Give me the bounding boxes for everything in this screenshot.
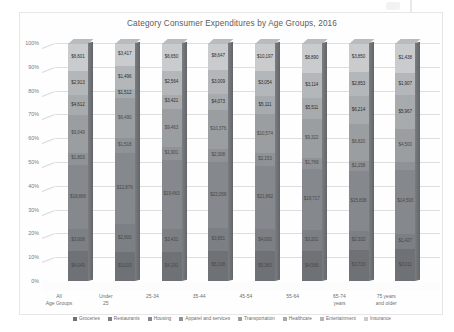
stacked-bar[interactable]: $3,733$2,332$15,838$1,158$6,820$6,214$2,…: [349, 43, 369, 281]
bar-segment[interactable]: $4,073: [208, 94, 228, 110]
bar-segment[interactable]: $5,511: [302, 98, 322, 120]
bar-segment[interactable]: $2,153: [255, 153, 275, 165]
bar-segment[interactable]: $6,601: [68, 43, 88, 71]
bar-segment[interactable]: $1,427: [395, 234, 415, 249]
x-axis-label: All Age Groups: [33, 293, 85, 306]
bar-segment[interactable]: $1,901: [162, 147, 182, 160]
bar-segment[interactable]: $3,008: [68, 229, 88, 251]
bar-segment[interactable]: $3,054: [255, 71, 275, 96]
bar-segment[interactable]: $1,496: [115, 66, 135, 89]
bar-segment[interactable]: $6,490: [115, 98, 135, 138]
bar-segment[interactable]: $10,197: [255, 43, 275, 71]
legend-item[interactable]: Transportation: [238, 316, 275, 321]
stacked-bar[interactable]: $4,049$3,008$18,886$1,803$9,049$4,612$2,…: [68, 43, 88, 281]
bar-segment[interactable]: $5,383: [255, 251, 275, 281]
bar-segment[interactable]: $1,907: [395, 73, 415, 95]
bar-segment-label: $1,803: [71, 156, 84, 161]
bar-segment[interactable]: $8,647: [208, 43, 228, 70]
stacked-bar[interactable]: $4,191$3,431$19,463$1,901$9,463$3,421$2,…: [162, 43, 182, 281]
bar-segment[interactable]: $4,612: [68, 95, 88, 114]
bar-segment[interactable]: $6,650: [162, 43, 182, 71]
bar-segment[interactable]: $18,886: [68, 165, 88, 230]
bar-segment[interactable]: $3,431: [162, 229, 182, 253]
x-axis-label: 55-64: [267, 293, 319, 300]
bar-segment[interactable]: $6,820: [349, 124, 369, 161]
legend-item[interactable]: Groceries: [73, 316, 100, 321]
bar-group[interactable]: $3,733$2,332$15,838$1,158$6,820$6,214$2,…: [349, 43, 375, 281]
bar-group[interactable]: $4,191$3,431$19,463$1,901$9,463$3,421$2,…: [162, 43, 188, 281]
bar-segment[interactable]: $12,876: [115, 153, 135, 225]
bar-segment[interactable]: $9,049: [68, 115, 88, 153]
bar-segment[interactable]: $3,201: [302, 230, 322, 251]
bar-segment[interactable]: $3,421: [162, 95, 182, 109]
bar-segment[interactable]: $19,463: [162, 160, 182, 229]
bar-segment[interactable]: $3,114: [302, 73, 322, 98]
bar-segment[interactable]: $1,803: [68, 153, 88, 165]
bar-segment-label: $3,114: [305, 83, 318, 88]
bar-segment-label: $19,717: [304, 197, 320, 202]
bar-segment[interactable]: $4,000: [255, 229, 275, 251]
bar-group[interactable]: $5,383$4,000$21,892$2,153$10,574$5,111$3…: [255, 43, 281, 281]
bar-segment-label: $1,438: [399, 56, 412, 61]
bar-segment[interactable]: $10,376: [208, 110, 228, 149]
bar-group[interactable]: $3,011$1,427$14,593$702$4,500$5,967$1,90…: [395, 43, 421, 281]
legend-item[interactable]: Entertainment: [320, 316, 356, 321]
bar-segment[interactable]: $22,059: [208, 162, 228, 228]
bar-segment[interactable]: $4,049: [68, 251, 88, 281]
bar-segment[interactable]: $5,108: [208, 251, 228, 281]
bar-segment[interactable]: $4,191: [162, 252, 182, 281]
bar-segment[interactable]: $2,853: [349, 72, 369, 97]
bar-segment[interactable]: $19,717: [302, 169, 322, 230]
bar-segment[interactable]: $2,913: [68, 71, 88, 95]
bar-segment[interactable]: $702: [395, 162, 415, 170]
legend-item[interactable]: Insurance: [364, 316, 391, 321]
bar-segment[interactable]: $3,011: [395, 249, 415, 281]
bar-segment[interactable]: $9,463: [162, 109, 182, 147]
bar-group[interactable]: $5,108$3,851$22,059$2,308$10,376$4,073$3…: [208, 43, 234, 281]
bar-segment[interactable]: $3,417: [115, 43, 135, 66]
bar-segment[interactable]: $8,890: [302, 43, 322, 73]
bar-segment[interactable]: $3,009: [208, 70, 228, 95]
stacked-bar[interactable]: $3,019$2,900$12,876$1,518$6,490$1,512$1,…: [115, 43, 135, 281]
bar-segment[interactable]: $14,593: [395, 170, 415, 234]
bar-group[interactable]: $3,019$2,900$12,876$1,518$6,490$1,512$1,…: [115, 43, 141, 281]
legend-item[interactable]: Healthcare: [283, 316, 312, 321]
bar-segment[interactable]: $2,308: [208, 149, 228, 162]
bar-segment[interactable]: $2,900: [115, 224, 135, 252]
bar-segment[interactable]: $5,967: [395, 95, 415, 129]
legend-item[interactable]: Restaurants: [108, 316, 140, 321]
bar-segment[interactable]: $3,851: [208, 228, 228, 251]
stacked-bar[interactable]: $3,011$1,427$14,593$702$4,500$5,967$1,90…: [395, 43, 415, 281]
bar-segment[interactable]: $1,769: [302, 158, 322, 169]
bar-segment[interactable]: $6,214: [349, 96, 369, 124]
bar-segment[interactable]: $3,733: [349, 250, 369, 281]
bar-group[interactable]: $4,568$3,201$19,717$1,769$9,322$5,511$3,…: [302, 43, 328, 281]
bar-segment[interactable]: $2,564: [162, 71, 182, 95]
bar-segment[interactable]: $4,500: [395, 129, 415, 162]
bar-segment[interactable]: $9,322: [302, 119, 322, 158]
bar-segment-label: $1,496: [118, 75, 131, 80]
bar-segment[interactable]: $15,838: [349, 171, 369, 231]
bar-segment[interactable]: $4,568: [302, 251, 322, 281]
bar-side-face: [135, 42, 140, 281]
bar-segment[interactable]: $1,518: [115, 138, 135, 152]
stacked-bar[interactable]: $5,383$4,000$21,892$2,153$10,574$5,111$3…: [255, 43, 275, 281]
y-axis-tick-label: 0%: [31, 278, 39, 284]
bar-segment[interactable]: $1,158: [349, 161, 369, 171]
bar-segment[interactable]: $5,111: [255, 96, 275, 115]
bar-segment[interactable]: $1,512: [115, 89, 135, 99]
bar-group[interactable]: $4,049$3,008$18,886$1,803$9,049$4,612$2,…: [68, 43, 94, 281]
bar-segment[interactable]: $10,574: [255, 114, 275, 153]
stacked-bar[interactable]: $4,568$3,201$19,717$1,769$9,322$5,511$3,…: [302, 43, 322, 281]
bar-segment[interactable]: $3,850: [349, 43, 369, 72]
legend-item[interactable]: Housing: [148, 316, 172, 321]
plot-area: 100%90%80%70%60%50%40%30%20%10%0% $4,049…: [42, 43, 440, 281]
bar-segment[interactable]: $2,332: [349, 231, 369, 250]
bar-segment[interactable]: $1,438: [395, 43, 415, 73]
legend-label: Groceries: [79, 316, 100, 321]
legend-item[interactable]: Apparel and services: [179, 316, 230, 321]
bar-segment[interactable]: $21,892: [255, 166, 275, 229]
bar-segment[interactable]: $3,019: [115, 252, 135, 281]
legend-label: Healthcare: [289, 316, 312, 321]
stacked-bar[interactable]: $5,108$3,851$22,059$2,308$10,376$4,073$3…: [208, 43, 228, 281]
